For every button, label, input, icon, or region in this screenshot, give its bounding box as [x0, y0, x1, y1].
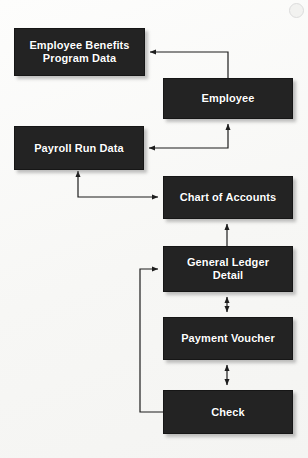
edge-employee-to-benefits	[150, 52, 228, 78]
node-label: Employee	[202, 92, 255, 105]
node-label: Check	[211, 406, 245, 419]
node-label: Payroll Run Data	[34, 142, 124, 155]
node-payment-voucher[interactable]: Payment Voucher	[163, 317, 293, 360]
node-employee[interactable]: Employee	[163, 78, 293, 119]
node-check[interactable]: Check	[163, 390, 293, 434]
edge-check-to-gl	[140, 269, 163, 412]
node-general-ledger-detail[interactable]: General Ledger Detail	[163, 246, 293, 292]
node-label: Chart of Accounts	[180, 191, 277, 204]
node-label: Employee Benefits Program Data	[29, 39, 129, 65]
node-employee-benefits-program-data[interactable]: Employee Benefits Program Data	[14, 28, 145, 76]
node-label: Payment Voucher	[181, 332, 275, 345]
edge-payroll-to-employee	[149, 124, 228, 148]
diagram-canvas: Employee Benefits Program Data Employee …	[0, 0, 308, 458]
node-chart-of-accounts[interactable]: Chart of Accounts	[163, 176, 293, 219]
edge-payroll-to-chart-of-accounts	[78, 171, 158, 197]
node-label: General Ledger Detail	[187, 256, 269, 282]
node-payroll-run-data[interactable]: Payroll Run Data	[14, 126, 144, 170]
